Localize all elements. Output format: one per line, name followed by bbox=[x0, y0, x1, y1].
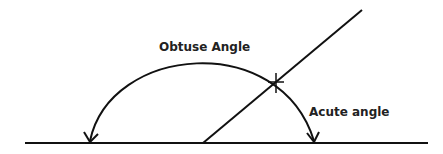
angle-arc bbox=[90, 63, 314, 141]
acute-angle-label: Acute angle bbox=[309, 105, 389, 119]
ray bbox=[203, 10, 362, 143]
angle-diagram: Obtuse Angle Acute angle bbox=[0, 0, 443, 154]
obtuse-angle-label: Obtuse Angle bbox=[159, 40, 250, 54]
